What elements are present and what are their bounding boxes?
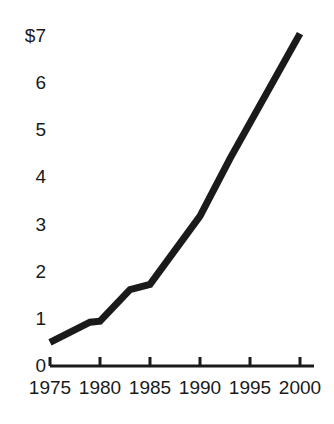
x-tick-label: 1995 [222,378,278,398]
x-tick-label: 1980 [72,378,128,398]
x-tick-label: 2000 [272,378,328,398]
x-tick-label: 1985 [122,378,178,398]
x-tick-label: 1975 [22,378,78,398]
x-axis: 197519801985199019952000 [0,0,334,424]
line-chart: $76543210 197519801985199019952000 [0,0,334,424]
x-tick-label: 1990 [172,378,228,398]
